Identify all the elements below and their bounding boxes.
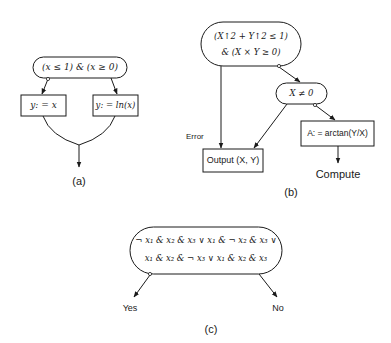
b-output-text: Output (X, Y) bbox=[207, 156, 259, 165]
c-condition-line1: ¬ x₁ & x₂ & x₃ ∨ x₁ & ¬ x₂ & x₃ ∨ bbox=[135, 236, 276, 245]
c-no-label: No bbox=[272, 304, 284, 313]
a-right-box-text: y: = ln(x) bbox=[96, 101, 136, 110]
a-true-dot bbox=[46, 77, 49, 80]
a-arrow-right bbox=[111, 78, 117, 94]
b-error-label: Error bbox=[186, 133, 204, 141]
b-condition-line2: & (X × Y ≥ 0) bbox=[221, 48, 280, 57]
c-no-arrow bbox=[259, 274, 277, 297]
c-condition-line2: x₁ & x₂ & ¬ x₃ ∨ x₁ & x₂ & x₃ bbox=[145, 254, 268, 263]
b-inner-condition: X ≠ 0 bbox=[290, 89, 314, 98]
a-arrow-left bbox=[42, 79, 48, 94]
c-yes-label: Yes bbox=[123, 304, 138, 313]
b-condition-line1: (X↑2 + Y↑2 ≤ 1) bbox=[214, 32, 288, 41]
b-assign-text: A: = arctan(Y/X) bbox=[307, 129, 368, 138]
b-true-dot bbox=[277, 64, 280, 67]
a-condition-text: (x ≤ 1) & (x ≥ 0) bbox=[42, 63, 118, 72]
b-inner-true-dot bbox=[313, 103, 316, 106]
a-merge-left bbox=[43, 116, 79, 145]
b-inner-false-arrow bbox=[254, 104, 287, 148]
diagram-b bbox=[201, 22, 374, 172]
diagram-a bbox=[21, 57, 138, 167]
a-left-box-text: y: = x bbox=[30, 101, 56, 110]
b-arrow-to-inner bbox=[279, 67, 300, 82]
c-caption: (c) bbox=[205, 324, 218, 335]
b-inner-true-arrow bbox=[315, 105, 335, 120]
b-compute-label: Compute bbox=[316, 169, 361, 180]
a-caption: (a) bbox=[72, 176, 85, 187]
b-caption: (b) bbox=[284, 187, 297, 198]
b-condition-oval bbox=[201, 22, 301, 66]
a-merge-right bbox=[79, 116, 115, 145]
c-yes-arrow bbox=[134, 275, 150, 297]
c-yes-dot bbox=[148, 272, 151, 275]
